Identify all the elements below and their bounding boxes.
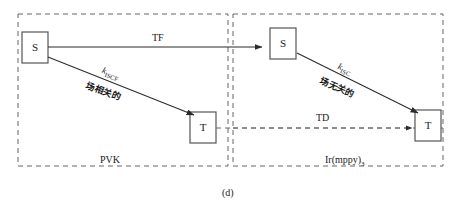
arrow-label-energy-transfer: TF bbox=[152, 33, 164, 43]
state-label-singlet-right: S bbox=[270, 38, 296, 49]
arrow-intersystem-crossing-left bbox=[48, 57, 194, 115]
material-name-right: Ir(mppy) bbox=[325, 154, 361, 165]
diagram-canvas bbox=[0, 0, 461, 208]
figure-caption: (d) bbox=[222, 188, 234, 198]
state-label-triplet-left: T bbox=[190, 122, 216, 133]
arrow-intersystem-crossing-right bbox=[297, 53, 418, 113]
material-label-left: PVK bbox=[100, 155, 120, 165]
material-label-right: Ir(mppy)3 bbox=[325, 155, 365, 168]
arrow-label-triplet-diffusion: TD bbox=[316, 113, 329, 123]
figure-container: S T S T TF kISCF 场相关的 kISC 场无关的 TD PVK I… bbox=[0, 0, 461, 208]
material-subscript-right: 3 bbox=[361, 160, 365, 168]
state-label-triplet-right: T bbox=[415, 120, 441, 131]
state-label-singlet-left: S bbox=[22, 42, 48, 53]
